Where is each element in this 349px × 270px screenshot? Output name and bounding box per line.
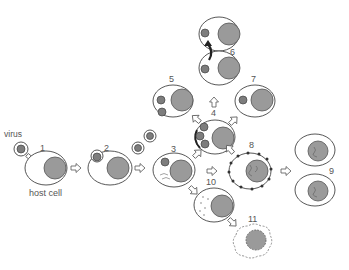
arrow-4-5-icon [189, 112, 202, 125]
host-cell-3 [153, 153, 195, 187]
step-7-label: 7 [251, 74, 256, 84]
arrow-4-6-icon [210, 97, 219, 107]
host-cell-2 [88, 150, 132, 185]
arrow-3-8-icon [207, 167, 217, 176]
step-8-label: 8 [249, 140, 254, 150]
arrow-8-9-icon [281, 167, 291, 176]
step-11-label: 11 [248, 214, 257, 224]
host-cell-7 [235, 85, 275, 117]
host-cell-11 [233, 224, 272, 258]
released-virions [132, 130, 156, 154]
host-cell-label: host cell [29, 188, 62, 198]
virus-label: virus [4, 129, 22, 139]
step-6-label: 6 [230, 47, 235, 57]
step-1-label: 1 [40, 143, 45, 153]
host-cell-8 [228, 152, 273, 191]
step-4-label: 4 [211, 108, 216, 118]
step-9-label: 9 [329, 166, 334, 176]
host-cell-10 [194, 188, 234, 222]
host-cell-1 [25, 151, 67, 185]
step-2-label: 2 [104, 143, 109, 153]
host-cell-5 [153, 85, 193, 117]
virus-infection-diagram: virus 1 host cell 2 3 4 [0, 0, 349, 270]
arrow-2-3-icon [135, 164, 145, 173]
arrow-1-2-icon [71, 164, 81, 173]
step-5-label: 5 [169, 74, 174, 84]
free-virus [14, 142, 28, 156]
step-10-label: 10 [206, 177, 216, 187]
step-3-label: 3 [171, 144, 176, 154]
